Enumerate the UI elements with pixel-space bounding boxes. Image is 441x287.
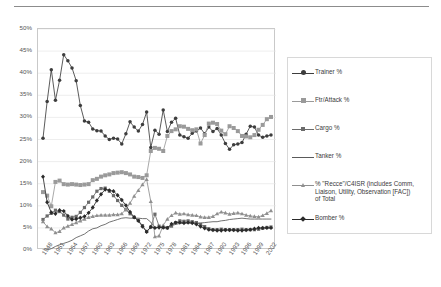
data-point-marker	[128, 201, 132, 205]
data-point-marker	[211, 130, 215, 134]
legend-item-1[interactable]: Ftr/Attack %	[292, 96, 349, 106]
legend-item-label: Trainer %	[315, 68, 342, 76]
legend-marker-circle-icon	[301, 70, 306, 75]
data-point-marker	[132, 175, 136, 179]
data-point-marker	[62, 213, 65, 216]
data-point-marker	[120, 170, 124, 174]
header-divider-rule	[14, 6, 429, 7]
series-line	[43, 55, 271, 150]
y-axis-tick-label: 15%	[2, 179, 32, 186]
data-point-marker	[99, 175, 103, 179]
data-point-marker	[49, 204, 53, 208]
data-point-marker	[232, 143, 236, 147]
data-point-marker	[120, 204, 123, 207]
data-point-marker	[190, 128, 194, 132]
data-point-marker	[257, 133, 261, 137]
data-point-marker	[49, 227, 53, 231]
y-axis-tick-label: 45%	[2, 46, 32, 53]
legend-key-icon	[292, 69, 314, 78]
data-point-marker	[116, 171, 120, 175]
data-point-marker	[182, 125, 186, 129]
data-point-marker	[95, 129, 99, 133]
data-point-marker	[87, 121, 91, 125]
data-point-marker	[240, 141, 244, 145]
data-point-marker	[58, 179, 62, 183]
data-point-marker	[95, 177, 99, 181]
data-point-marker	[78, 216, 82, 220]
legend-key-icon	[292, 97, 314, 106]
data-point-marker	[170, 121, 174, 125]
data-point-marker	[178, 133, 182, 137]
data-point-marker	[116, 137, 120, 141]
data-point-marker	[87, 182, 91, 186]
data-point-marker	[91, 178, 95, 182]
data-point-marker	[149, 199, 153, 203]
data-point-marker	[58, 79, 62, 83]
data-point-marker	[186, 127, 190, 131]
data-point-marker	[253, 125, 257, 128]
legend-item-3[interactable]: Tanker %	[292, 152, 341, 162]
data-point-marker	[87, 201, 90, 204]
legend-item-4[interactable]: % "Recce"/C4ISR (includes Comm, Liaison,…	[292, 180, 414, 203]
data-point-marker	[232, 126, 236, 130]
data-point-marker	[153, 213, 156, 216]
data-point-marker	[107, 172, 111, 176]
data-point-marker	[140, 176, 144, 180]
data-point-marker	[269, 133, 273, 137]
legend-item-label: % "Recce"/C4ISR (includes Comm, Liaison,…	[315, 180, 414, 203]
data-point-marker	[70, 66, 74, 70]
data-point-marker	[261, 136, 265, 140]
data-point-marker	[170, 129, 174, 133]
data-point-marker	[83, 206, 86, 209]
data-point-marker	[261, 123, 265, 127]
data-point-marker	[236, 142, 240, 146]
legend-key-icon	[292, 181, 314, 190]
data-point-marker	[224, 142, 228, 146]
data-point-marker	[99, 187, 102, 190]
legend-item-5[interactable]: Bomber %	[292, 214, 344, 224]
data-point-marker	[199, 141, 203, 145]
data-point-marker	[124, 171, 128, 175]
data-point-marker	[199, 126, 203, 129]
legend-key-icon	[292, 153, 314, 162]
series-line	[43, 188, 271, 231]
data-point-marker	[83, 119, 87, 123]
legend-item-0[interactable]: Trainer %	[292, 68, 342, 78]
data-point-marker	[178, 124, 182, 128]
data-point-marker	[99, 129, 103, 133]
data-point-marker	[41, 174, 45, 178]
legend-marker-triangle-icon	[301, 183, 305, 187]
data-point-marker	[228, 147, 232, 151]
legend-marker-square-icon	[301, 98, 306, 103]
data-point-marker	[219, 210, 223, 214]
data-point-marker	[53, 180, 57, 184]
y-axis-tick-label: 0%	[2, 245, 32, 252]
data-point-marker	[54, 98, 58, 102]
data-point-marker	[203, 133, 207, 137]
data-point-marker	[223, 132, 227, 136]
legend-item-label: Tanker %	[315, 152, 341, 160]
data-point-marker	[153, 128, 157, 132]
data-point-marker	[50, 68, 54, 72]
data-point-marker	[78, 183, 82, 187]
data-point-marker	[95, 190, 98, 193]
data-point-marker	[103, 134, 107, 138]
data-point-marker	[74, 183, 78, 187]
data-point-marker	[112, 136, 116, 140]
data-point-marker	[228, 124, 232, 128]
data-point-marker	[252, 133, 256, 137]
data-point-marker	[244, 134, 248, 138]
legend-item-label: Cargo %	[315, 124, 340, 132]
plot-area	[37, 28, 275, 249]
data-point-marker	[124, 132, 128, 136]
data-point-marker	[169, 213, 173, 217]
data-point-marker	[141, 123, 145, 127]
legend-item-2[interactable]: Cargo %	[292, 124, 340, 134]
data-point-marker	[269, 115, 273, 119]
data-point-marker	[248, 135, 252, 139]
data-point-marker	[157, 147, 161, 151]
data-point-marker	[112, 194, 115, 197]
data-point-marker	[182, 135, 186, 139]
data-point-marker	[66, 183, 70, 187]
data-point-marker	[79, 104, 83, 108]
